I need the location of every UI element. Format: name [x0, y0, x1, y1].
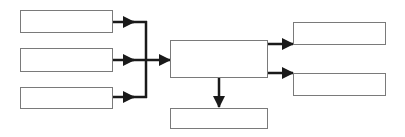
- output-box-2: [293, 73, 386, 96]
- input-box-3-label: [21, 88, 112, 108]
- input-box-3: [20, 87, 113, 109]
- process-box: [170, 40, 268, 78]
- input-box-1-label: [21, 11, 112, 32]
- output-box-1-label: [294, 23, 385, 44]
- input-box-2-label: [21, 49, 112, 71]
- process-box-label: [171, 41, 267, 77]
- input-box-1: [20, 10, 113, 33]
- output-box-3-label: [171, 109, 267, 128]
- flowchart-diagram: [0, 0, 405, 137]
- output-box-1: [293, 22, 386, 45]
- output-box-2-label: [294, 74, 385, 95]
- output-box-3: [170, 108, 268, 129]
- input-box-2: [20, 48, 113, 72]
